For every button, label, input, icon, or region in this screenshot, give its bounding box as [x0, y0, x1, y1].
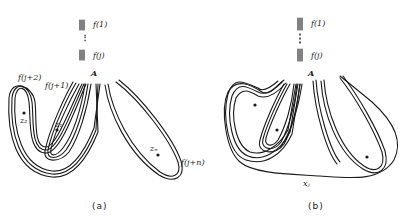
label-point-A-b: A: [308, 69, 314, 77]
caption-b: (b): [308, 202, 324, 211]
boundary-xj: [224, 76, 397, 178]
label-xj: xⱼ: [303, 180, 310, 188]
panel-a-graphic: [9, 20, 182, 179]
point-3-b: [365, 155, 368, 158]
label-zn: zₙ: [150, 145, 157, 153]
vertical-ellipsis-a: ⋮: [81, 33, 89, 41]
loop-right-b: [313, 76, 386, 173]
label-f1-b: f(1): [311, 20, 325, 28]
point-zn-a: [156, 153, 159, 156]
loop-f-j-plus-n: [105, 80, 182, 179]
label-z1: z₁: [55, 121, 62, 129]
loop-inner-b: [259, 84, 302, 152]
stack-bars-f1-a: [80, 20, 84, 30]
figure: f(1) ⋮ f(j) A f(j+2) f(j+1) f(j+n) z₂ z₁…: [0, 0, 412, 224]
point-1-b: [253, 103, 256, 106]
label-z2: z₂: [20, 117, 27, 125]
label-f-j-plus-2: f(j+2): [18, 74, 41, 82]
label-fj-b: f(j): [311, 52, 323, 60]
diagram-svg: [0, 0, 412, 224]
loop-f-j-plus-2: [9, 84, 100, 177]
label-f-j-plus-n: f(j+n): [181, 159, 205, 167]
label-point-A-a: A: [91, 69, 97, 77]
point-z2-a: [22, 111, 25, 114]
point-2-b: [275, 128, 278, 131]
caption-a: (a): [92, 202, 108, 211]
label-f-j-plus-1: f(j+1): [45, 82, 68, 90]
panel-b-graphic: [224, 18, 397, 178]
stack-bars-fj-b: [298, 49, 302, 61]
stack-bars-fj-a: [80, 50, 84, 60]
label-fj-a: f(j): [93, 52, 105, 60]
stack-bars-f1-b: [298, 18, 302, 30]
label-f1-a: f(1): [93, 21, 107, 29]
